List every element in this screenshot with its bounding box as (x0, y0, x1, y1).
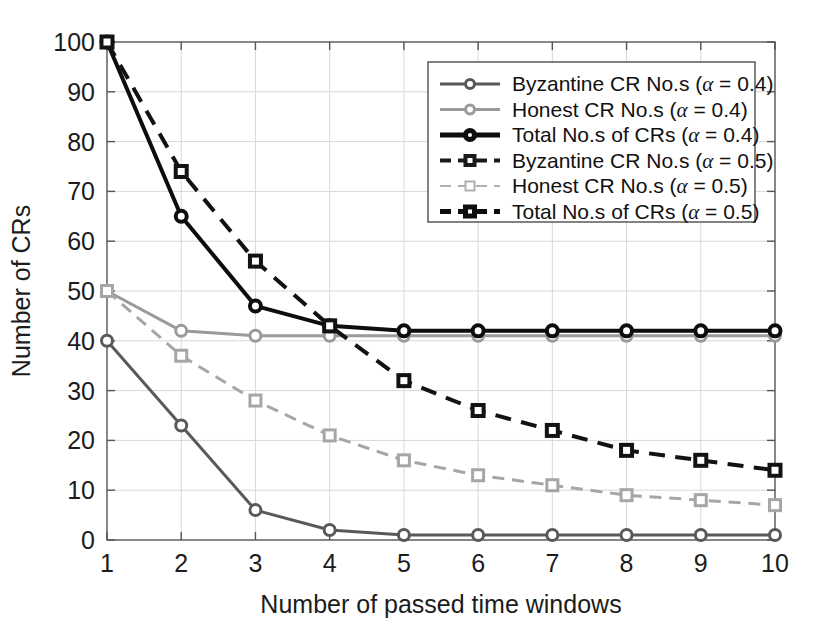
data-point-marker (473, 405, 484, 416)
data-point-marker (770, 465, 781, 476)
data-point-marker (176, 166, 187, 177)
x-tick-label: 8 (620, 549, 634, 577)
data-point-marker (176, 420, 187, 431)
legend-sample-marker (466, 105, 475, 114)
y-tick-label: 100 (53, 28, 95, 56)
y-tick-label: 70 (67, 177, 95, 205)
legend-entry-label: Byzantine CR No.s (α = 0.5) (512, 149, 773, 173)
data-point-marker (695, 455, 706, 466)
y-tick-label: 80 (67, 128, 95, 156)
data-point-marker (621, 445, 632, 456)
data-point-marker (398, 455, 409, 466)
data-point-marker (695, 325, 706, 336)
data-point-marker (770, 530, 781, 541)
x-tick-label: 2 (174, 549, 188, 577)
x-tick-label: 9 (694, 549, 708, 577)
data-point-marker (250, 505, 261, 516)
y-tick-label: 50 (67, 277, 95, 305)
legend-sample-marker (466, 182, 475, 191)
data-point-marker (250, 395, 261, 406)
data-point-marker (324, 525, 335, 536)
y-tick-label: 0 (81, 526, 95, 554)
data-point-marker (621, 325, 632, 336)
legend-sample-marker (466, 156, 475, 165)
legend-entry-label: Honest CR No.s (α = 0.5) (512, 174, 748, 198)
x-tick-label: 10 (761, 549, 789, 577)
y-tick-label: 10 (67, 476, 95, 504)
data-point-marker (250, 256, 261, 267)
x-tick-label: 3 (248, 549, 262, 577)
legend-entry-label: Total No.s of CRs (α = 0.4) (512, 123, 759, 147)
data-point-marker (102, 286, 113, 297)
data-point-marker (176, 325, 187, 336)
x-tick-label: 7 (545, 549, 559, 577)
legend-sample-marker (466, 80, 475, 89)
data-point-marker (547, 480, 558, 491)
y-axis-title: Number of CRs (7, 205, 35, 377)
data-point-marker (547, 325, 558, 336)
x-axis-title: Number of passed time windows (260, 590, 621, 618)
data-point-marker (547, 530, 558, 541)
data-point-marker (770, 500, 781, 511)
y-tick-label: 40 (67, 327, 95, 355)
legend-sample-marker (466, 207, 475, 216)
data-point-marker (547, 425, 558, 436)
chart-figure: 12345678910 0102030405060708090100 Numbe… (0, 0, 825, 635)
y-tick-label: 90 (67, 78, 95, 106)
data-point-marker (473, 530, 484, 541)
y-tick-label: 60 (67, 227, 95, 255)
legend-sample-marker (466, 131, 475, 140)
x-tick-label: 4 (323, 549, 337, 577)
data-point-marker (102, 37, 113, 48)
legend-entry-label: Byzantine CR No.s (α = 0.4) (512, 72, 773, 96)
data-point-marker (695, 495, 706, 506)
line-chart: 12345678910 0102030405060708090100 Numbe… (0, 0, 825, 635)
x-tick-label: 6 (471, 549, 485, 577)
data-point-marker (621, 490, 632, 501)
data-point-marker (398, 325, 409, 336)
data-point-marker (324, 320, 335, 331)
legend-entry-label: Total No.s of CRs (α = 0.5) (512, 200, 759, 224)
data-point-marker (250, 300, 261, 311)
data-point-marker (770, 325, 781, 336)
data-point-marker (176, 211, 187, 222)
data-point-marker (473, 325, 484, 336)
data-point-marker (176, 350, 187, 361)
data-point-marker (473, 470, 484, 481)
data-point-marker (621, 530, 632, 541)
data-point-marker (324, 430, 335, 441)
data-point-marker (398, 530, 409, 541)
data-point-marker (695, 530, 706, 541)
data-point-marker (102, 335, 113, 346)
y-tick-label: 30 (67, 377, 95, 405)
legend-entry-label: Honest CR No.s (α = 0.4) (512, 98, 748, 122)
x-tick-label: 5 (397, 549, 411, 577)
data-point-marker (398, 375, 409, 386)
data-point-marker (250, 330, 261, 341)
chart-legend: Byzantine CR No.s (α = 0.4)Honest CR No.… (428, 62, 773, 224)
x-tick-label: 1 (100, 549, 114, 577)
y-tick-label: 20 (67, 426, 95, 454)
